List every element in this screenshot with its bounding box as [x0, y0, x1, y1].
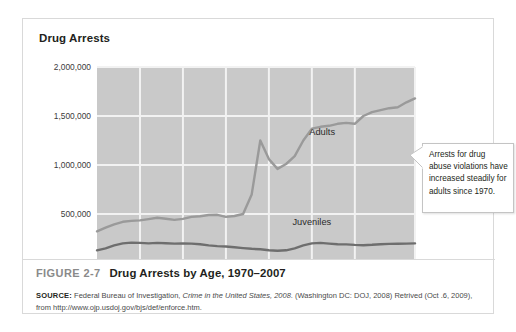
callout-box: Arrests for drug abuse violations have i…	[422, 143, 514, 213]
source-label: SOURCE:	[36, 291, 72, 300]
y-axis-tick-label: 1,500,000	[54, 111, 92, 121]
y-axis-tick-label: 500,000	[61, 209, 92, 219]
y-axis-tick-label: 2,000,000	[54, 62, 92, 72]
series-label-juveniles: Juveniles	[292, 217, 331, 227]
figure-number: FIGURE 2-7	[36, 267, 101, 279]
series-label-adults: Adults	[309, 127, 335, 137]
figure-card: Drug Arrests 0500,0001,000,0001,500,0002…	[22, 18, 494, 314]
caption-row: FIGURE 2-7 Drug Arrests by Age, 1970–200…	[36, 267, 286, 279]
figure-caption: Drug Arrests by Age, 1970–2007	[110, 267, 286, 279]
chart-block: Drug Arrests 0500,0001,000,0001,500,0002…	[23, 19, 495, 259]
chart-plot: 0500,0001,000,0001,500,0002,000,00019701…	[23, 19, 495, 259]
caption-divider	[23, 259, 495, 260]
source-text-before: Federal Bureau of Investigation,	[72, 291, 182, 300]
source-title-italic: Crime in the United States, 2008.	[182, 291, 292, 300]
source-note: SOURCE: Federal Bureau of Investigation,…	[36, 290, 483, 313]
callout-tail-icon	[410, 146, 424, 172]
callout-text: Arrests for drug abuse violations have i…	[429, 149, 509, 198]
y-axis-tick-label: 1,000,000	[54, 160, 92, 170]
